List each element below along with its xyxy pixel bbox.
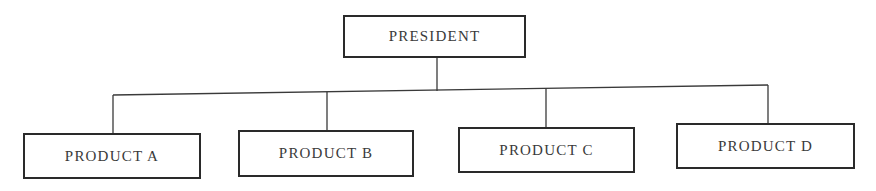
president-label: PRESIDENT: [389, 28, 481, 45]
product-c-label: PRODUCT C: [499, 142, 593, 159]
product-c-box: PRODUCT C: [458, 127, 635, 173]
org-chart: PRESIDENT PRODUCT A PRODUCT B PRODUCT C …: [0, 0, 876, 191]
product-b-box: PRODUCT B: [238, 130, 414, 177]
president-box: PRESIDENT: [343, 15, 526, 58]
product-a-box: PRODUCT A: [23, 133, 201, 179]
product-d-box: PRODUCT D: [676, 123, 855, 169]
product-d-label: PRODUCT D: [718, 138, 813, 155]
product-b-label: PRODUCT B: [279, 145, 373, 162]
product-a-label: PRODUCT A: [65, 148, 159, 165]
horizontal-bus: [113, 85, 768, 95]
